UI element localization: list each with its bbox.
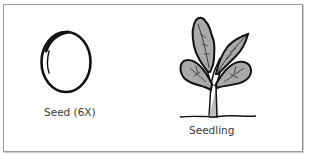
seedling-label: Seedling xyxy=(189,124,234,136)
seed-icon xyxy=(38,29,94,95)
seedling-icon xyxy=(176,14,260,120)
seed-label: Seed (6X) xyxy=(44,106,96,118)
